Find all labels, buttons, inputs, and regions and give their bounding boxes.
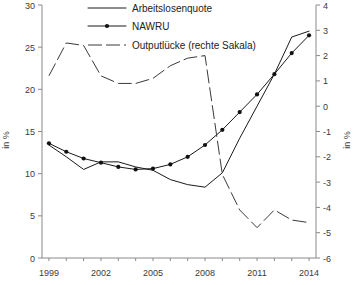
y-tick-label-right: 0 — [323, 102, 328, 112]
x-tick-label: 2008 — [195, 268, 215, 278]
x-tick-label: 2014 — [299, 268, 319, 278]
y-tick-label-left: 30 — [25, 1, 35, 11]
series-marker — [99, 161, 103, 165]
series-marker — [186, 155, 190, 159]
chart-legend: ArbeitslosenquoteNAWRUOutputlücke (recht… — [88, 3, 256, 51]
legend-marker-1 — [105, 24, 109, 28]
series-line-outputlcke — [49, 43, 309, 228]
series-line-nawru — [49, 35, 309, 169]
series-marker — [272, 72, 276, 76]
series-marker — [290, 51, 294, 55]
x-tick-label: 2002 — [91, 268, 111, 278]
series-line-arbeitslosenquote — [49, 31, 309, 187]
series-marker — [64, 150, 68, 154]
series-marker — [255, 92, 259, 96]
series-marker — [238, 110, 242, 114]
x-tick-label: 2011 — [247, 268, 266, 278]
series-marker — [116, 165, 120, 169]
legend-label-1: NAWRU — [132, 21, 169, 32]
y-tick-label-right: 3 — [323, 26, 328, 36]
y-tick-label-right: 1 — [323, 76, 328, 86]
series-marker — [151, 167, 155, 171]
y-tick-label-right: -6 — [323, 254, 331, 264]
y-tick-label-right: -5 — [323, 228, 331, 238]
y-tick-label-right: -2 — [323, 152, 331, 162]
legend-label-2: Outputlücke (rechte Sakala) — [132, 40, 256, 51]
y-tick-label-right: -4 — [323, 203, 331, 213]
y-tick-label-right: -1 — [323, 127, 331, 137]
series-marker — [47, 141, 51, 145]
series-marker — [203, 143, 207, 147]
x-tick-label: 1999 — [39, 268, 59, 278]
y-tick-label-left: 0 — [30, 254, 35, 264]
y-axis-title-left: in % — [1, 131, 11, 149]
series-marker — [220, 128, 224, 132]
y-tick-label-left: 10 — [25, 169, 35, 179]
chart-container: 051015202530-6-5-4-3-2-10123419992002200… — [0, 0, 358, 285]
series-marker — [134, 167, 138, 171]
y-tick-label-left: 25 — [25, 43, 35, 53]
y-tick-label-left: 15 — [25, 127, 35, 137]
series-marker — [307, 33, 311, 37]
x-tick-label: 2005 — [143, 268, 163, 278]
y-tick-label-left: 5 — [30, 211, 35, 221]
y-tick-label-left: 20 — [25, 85, 35, 95]
y-tick-label-right: 4 — [323, 1, 328, 11]
legend-label-0: Arbeitslosenquote — [132, 3, 212, 14]
unemployment-nawru-outputgap-chart: 051015202530-6-5-4-3-2-10123419992002200… — [0, 0, 358, 285]
y-tick-label-right: -3 — [323, 178, 331, 188]
chart-series — [47, 31, 311, 228]
series-marker — [82, 156, 86, 160]
y-tick-label-right: 2 — [323, 51, 328, 61]
y-axis-title-right: in % — [342, 131, 352, 149]
series-marker — [168, 162, 172, 166]
